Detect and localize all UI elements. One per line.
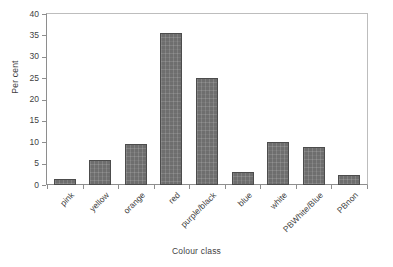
- bar-slot: [331, 14, 367, 185]
- x-tick-label: white: [268, 190, 289, 211]
- y-tick-mark: [42, 121, 46, 122]
- y-axis: 0510152025303540: [0, 13, 46, 186]
- y-tick-mark: [42, 35, 46, 36]
- x-axis-labels: pinkyelloworangeredpurple/blackbluewhite…: [47, 190, 367, 250]
- y-tick-label: 35: [30, 30, 39, 40]
- y-tick-label: 25: [30, 73, 39, 83]
- x-tick-mark: [118, 185, 119, 189]
- bar-slot: [154, 14, 190, 185]
- bar[interactable]: [267, 142, 289, 185]
- y-tick-label: 40: [30, 9, 39, 19]
- bar-slot: [296, 14, 332, 185]
- bar[interactable]: [89, 160, 111, 185]
- x-tick-mark: [260, 185, 261, 189]
- bar-chart: Per cent 0510152025303540 pinkyelloworan…: [0, 0, 393, 267]
- x-tick-label-text: PBnon: [335, 190, 360, 215]
- x-tick-label-text: white: [268, 190, 289, 211]
- y-tick-mark: [42, 78, 46, 79]
- x-tick-label: yellow: [88, 190, 112, 214]
- x-tick-label-text: yellow: [88, 190, 112, 214]
- x-tick-label-text: red: [167, 190, 183, 206]
- x-axis-title: Colour class: [0, 246, 393, 256]
- y-tick-mark: [42, 100, 46, 101]
- x-tick-label: red: [167, 190, 183, 206]
- y-tick-label: 5: [34, 158, 39, 168]
- x-tick-label: blue: [235, 190, 253, 208]
- x-tick-mark: [367, 185, 368, 189]
- bar-slot: [260, 14, 296, 185]
- bar[interactable]: [160, 33, 182, 185]
- bar[interactable]: [232, 172, 254, 185]
- x-tick-label: orange: [121, 190, 147, 216]
- x-tick-mark: [83, 185, 84, 189]
- x-tick-label-text: orange: [121, 190, 147, 216]
- bar[interactable]: [196, 78, 218, 185]
- bar-slot: [47, 14, 83, 185]
- y-tick-mark: [42, 14, 46, 15]
- y-tick-mark: [42, 164, 46, 165]
- x-tick-label: purple/black: [179, 190, 218, 229]
- y-tick-mark: [42, 142, 46, 143]
- bar-slot: [83, 14, 119, 185]
- y-tick-label: 30: [30, 51, 39, 61]
- bar[interactable]: [125, 144, 147, 185]
- x-tick-mark: [189, 185, 190, 189]
- bar[interactable]: [338, 175, 360, 185]
- x-tick-mark: [331, 185, 332, 189]
- bars-layer: [47, 14, 367, 185]
- x-tick-label-text: blue: [235, 190, 253, 208]
- x-tick-mark: [225, 185, 226, 189]
- y-tick-mark: [42, 57, 46, 58]
- x-tick-mark: [47, 185, 48, 189]
- bar[interactable]: [303, 147, 325, 185]
- x-tick-label-text: purple/black: [179, 190, 218, 229]
- x-tick-mark: [154, 185, 155, 189]
- y-tick-label: 10: [30, 137, 39, 147]
- y-tick-label: 15: [30, 115, 39, 125]
- x-tick-label: pink: [58, 190, 76, 208]
- x-tick-label: PBnon: [335, 190, 360, 215]
- bar-slot: [118, 14, 154, 185]
- bar-slot: [225, 14, 261, 185]
- y-tick-label: 20: [30, 94, 39, 104]
- x-tick-label-text: pink: [58, 190, 76, 208]
- bar-slot: [189, 14, 225, 185]
- y-tick-label: 0: [34, 180, 39, 190]
- x-tick-mark: [296, 185, 297, 189]
- y-tick-mark: [42, 185, 46, 186]
